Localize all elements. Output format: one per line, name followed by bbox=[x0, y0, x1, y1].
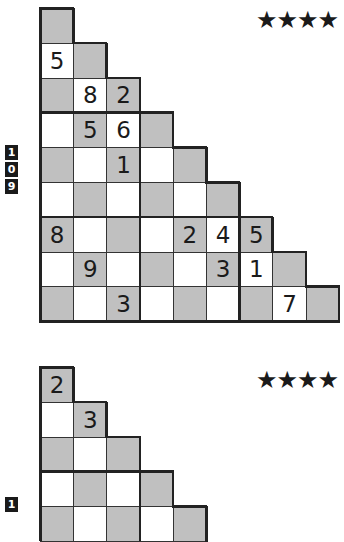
grid-cell[interactable]: 5 bbox=[40, 43, 74, 79]
grid-cell[interactable] bbox=[140, 182, 174, 218]
grid-cell[interactable] bbox=[106, 217, 140, 253]
grid-cell[interactable] bbox=[73, 147, 107, 183]
grid-cell[interactable] bbox=[173, 182, 207, 218]
grid-cell[interactable] bbox=[206, 286, 240, 322]
puzzle-number-digit: 9 bbox=[5, 179, 18, 194]
grid-cell[interactable] bbox=[306, 286, 340, 322]
puzzle-number-digit: 0 bbox=[5, 162, 18, 177]
block-border bbox=[305, 252, 308, 288]
grid-cell[interactable] bbox=[106, 252, 140, 288]
grid-cell[interactable]: 9 bbox=[73, 252, 107, 288]
block-border bbox=[72, 367, 75, 403]
grid-cell[interactable] bbox=[140, 112, 174, 148]
grid-cell[interactable]: 8 bbox=[73, 78, 107, 114]
block-border bbox=[305, 285, 340, 288]
grid-cell[interactable] bbox=[106, 471, 140, 507]
grid-cell[interactable]: 3 bbox=[73, 402, 107, 438]
grid-cell[interactable]: 2 bbox=[106, 78, 140, 114]
block-border bbox=[72, 8, 75, 44]
puzzle-number-digit: 1 bbox=[5, 145, 18, 160]
grid-cell[interactable] bbox=[40, 182, 74, 218]
grid-cell[interactable] bbox=[206, 182, 240, 218]
grid-cell[interactable]: 5 bbox=[73, 112, 107, 148]
grid-cell[interactable] bbox=[106, 506, 140, 542]
block-border bbox=[238, 182, 241, 218]
grid-cell[interactable]: 3 bbox=[206, 252, 240, 288]
grid-cell[interactable] bbox=[73, 217, 107, 253]
grid-cell[interactable]: 3 bbox=[106, 286, 140, 322]
grid-cell[interactable]: 8 bbox=[40, 217, 74, 253]
grid-cell[interactable] bbox=[40, 402, 74, 438]
block-border bbox=[139, 437, 142, 473]
grid-cell[interactable] bbox=[40, 112, 74, 148]
block-border bbox=[205, 181, 240, 184]
puzzle-next: ★★★★ 1 23 bbox=[0, 360, 344, 514]
block-border bbox=[205, 147, 208, 183]
block-border bbox=[205, 506, 208, 542]
block-border bbox=[139, 470, 174, 473]
block-border bbox=[39, 366, 74, 369]
block-border bbox=[139, 112, 142, 321]
block-border bbox=[105, 43, 108, 79]
grid-cell[interactable]: 5 bbox=[239, 217, 273, 253]
grid-cell[interactable] bbox=[140, 217, 174, 253]
puzzle-number: 1 0 9 bbox=[5, 145, 18, 196]
grid-cell[interactable]: 2 bbox=[173, 217, 207, 253]
grid-cell[interactable]: 1 bbox=[106, 147, 140, 183]
block-border bbox=[271, 217, 274, 253]
grid-cell[interactable] bbox=[173, 506, 207, 542]
block-border bbox=[172, 112, 175, 148]
block-border bbox=[338, 286, 341, 322]
block-border bbox=[39, 7, 74, 10]
block-border bbox=[39, 320, 340, 323]
grid-cell[interactable] bbox=[140, 147, 174, 183]
difficulty-stars: ★★★★ bbox=[256, 8, 338, 32]
block-border bbox=[139, 78, 142, 114]
grid-cell[interactable] bbox=[173, 286, 207, 322]
grid-cell[interactable] bbox=[106, 437, 140, 473]
grid-cell[interactable] bbox=[73, 286, 107, 322]
grid-cell[interactable]: 2 bbox=[40, 367, 74, 403]
block-border bbox=[238, 217, 241, 321]
grid-cell[interactable] bbox=[40, 437, 74, 473]
block-border bbox=[105, 402, 108, 438]
grid-cell[interactable]: 6 bbox=[106, 112, 140, 148]
block-border bbox=[39, 8, 42, 321]
grid-cell[interactable] bbox=[40, 147, 74, 183]
grid-cell[interactable] bbox=[73, 437, 107, 473]
grid-cell[interactable] bbox=[73, 182, 107, 218]
grid-cell[interactable] bbox=[40, 286, 74, 322]
grid-cell[interactable] bbox=[73, 43, 107, 79]
puzzle-number: 1 bbox=[5, 497, 18, 514]
grid-cell[interactable] bbox=[40, 471, 74, 507]
block-border bbox=[72, 401, 107, 404]
grid-cell[interactable] bbox=[73, 506, 107, 542]
grid-cell[interactable] bbox=[140, 252, 174, 288]
grid-cell[interactable] bbox=[173, 147, 207, 183]
grid-cell[interactable] bbox=[140, 471, 174, 507]
block-border bbox=[172, 505, 207, 508]
grid-cell[interactable] bbox=[140, 286, 174, 322]
grid-cell[interactable] bbox=[106, 182, 140, 218]
block-border bbox=[72, 42, 107, 45]
grid-cell[interactable] bbox=[239, 286, 273, 322]
grid-cell[interactable] bbox=[40, 252, 74, 288]
block-border bbox=[39, 367, 42, 541]
block-border bbox=[172, 471, 175, 507]
grid-cell[interactable]: 4 bbox=[206, 217, 240, 253]
grid-cell[interactable] bbox=[173, 252, 207, 288]
grid-cell[interactable] bbox=[73, 471, 107, 507]
grid-cell[interactable] bbox=[272, 252, 306, 288]
grid-cell[interactable] bbox=[140, 506, 174, 542]
grid-cell[interactable] bbox=[40, 8, 74, 44]
grid-cell[interactable]: 7 bbox=[272, 286, 306, 322]
grid-cell[interactable] bbox=[40, 506, 74, 542]
block-border bbox=[139, 111, 174, 114]
block-border bbox=[271, 251, 306, 254]
puzzle-number-digit: 1 bbox=[5, 497, 18, 512]
block-border bbox=[105, 436, 140, 439]
grid-cell[interactable] bbox=[40, 78, 74, 114]
block-border bbox=[139, 471, 142, 541]
block-border bbox=[105, 77, 140, 80]
grid-cell[interactable]: 1 bbox=[239, 252, 273, 288]
